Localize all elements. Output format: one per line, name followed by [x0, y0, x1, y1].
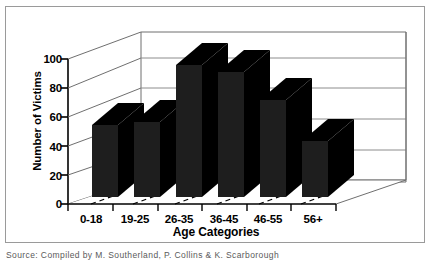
source-note: Source: Compiled by M. Southerland, P. C…: [6, 250, 431, 260]
top-clipped-artifact: [0, 0, 431, 5]
figure-container: Number of Victims 100 80 60 40 20 0: [0, 0, 431, 260]
x-tick-label-46-55: 46-55: [245, 213, 291, 225]
x-tick-label-0-18: 0-18: [68, 213, 114, 225]
x-axis-label: Age Categories: [6, 225, 425, 239]
x-tick-label-36-45: 36-45: [201, 213, 247, 225]
x-tick-label-56-plus: 56+: [290, 213, 336, 225]
x-axis-tick-marks: [68, 204, 336, 211]
x-tick-label-19-25: 19-25: [112, 213, 158, 225]
chart-frame: Number of Victims 100 80 60 40 20 0: [5, 6, 425, 243]
x-tick-label-26-35: 26-35: [156, 213, 202, 225]
depth-line-100: [68, 32, 141, 59]
depth-line-80: [68, 58, 141, 88]
plot-area: [6, 7, 425, 243]
